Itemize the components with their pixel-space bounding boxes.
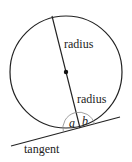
angle-a-label: a (69, 116, 75, 130)
angle-b-label: b (82, 114, 88, 128)
tangent-radius-diagram: radius radius a b tangent (0, 0, 132, 162)
radius-lower-label: radius (77, 92, 107, 106)
center-point (64, 70, 68, 74)
radius-upper-label: radius (64, 37, 94, 51)
tangent-label: tangent (24, 142, 60, 156)
